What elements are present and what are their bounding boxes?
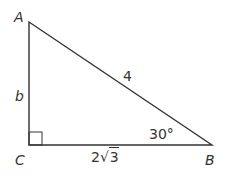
vertex-label-a: A bbox=[14, 10, 24, 24]
side-label-cb-radicand: 3 bbox=[109, 147, 119, 165]
triangle-abc bbox=[29, 22, 212, 145]
vertex-label-c: C bbox=[15, 153, 25, 167]
right-angle-marker bbox=[29, 132, 42, 145]
side-label-b: b bbox=[15, 89, 24, 103]
side-label-hypotenuse: 4 bbox=[123, 69, 132, 83]
vertex-label-b: B bbox=[205, 153, 215, 167]
sqrt-icon: √3 bbox=[100, 150, 119, 164]
side-label-cb: 2√3 bbox=[91, 150, 119, 164]
angle-label-b: 30° bbox=[149, 127, 174, 141]
side-label-cb-coef: 2 bbox=[91, 149, 100, 165]
